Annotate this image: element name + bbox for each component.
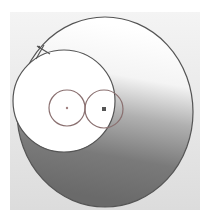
- diagram-canvas: [0, 0, 213, 217]
- center-dot-icon: [66, 107, 68, 109]
- diagram-svg: [0, 0, 213, 217]
- center-square-icon[interactable]: [102, 107, 106, 111]
- white-circle[interactable]: [13, 50, 115, 152]
